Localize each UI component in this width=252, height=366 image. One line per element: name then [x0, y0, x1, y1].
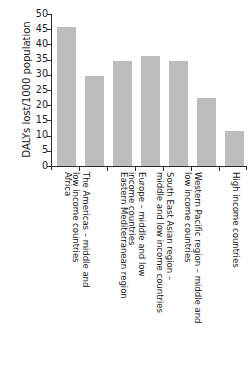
x-axis-category-label: The Americas – middle and low income cou… [71, 172, 90, 357]
y-axis-tick-label: 45 [36, 23, 48, 35]
x-axis-category-label: Western Pacific region – middle and low … [183, 172, 202, 357]
bar [169, 61, 188, 166]
x-axis-category-label: Europe – middle and low income countries [127, 172, 146, 357]
x-axis-line [51, 166, 247, 167]
bar [225, 131, 244, 166]
y-axis-tick-label: 35 [36, 53, 48, 65]
y-axis-line [51, 14, 52, 166]
bar [57, 27, 76, 166]
x-axis-category-label: High income countries [230, 172, 240, 357]
x-axis-right-cap [246, 166, 247, 170]
bar [141, 56, 160, 166]
x-axis-tick [79, 166, 80, 171]
y-axis-tick-label: 50 [36, 8, 48, 20]
y-axis-tick-label: 20 [36, 99, 48, 111]
y-axis-tick-label: 30 [36, 68, 48, 80]
x-axis-category-label: South East Asian region – middle and low… [155, 172, 174, 357]
x-axis-tick [135, 166, 136, 171]
y-axis-tick-label: 40 [36, 38, 48, 50]
x-axis-tick [191, 166, 192, 171]
y-axis-tick-label: 25 [36, 84, 48, 96]
bar-chart: DALYs lost/1000 population 0510152025303… [0, 0, 252, 366]
plot-area: 05101520253035404550 [51, 14, 247, 166]
y-axis-tick-label: 10 [36, 129, 48, 141]
y-axis-tick-label: 15 [36, 114, 48, 126]
y-axis-tick-label: 0 [42, 160, 48, 172]
x-axis-tick [163, 166, 164, 171]
y-axis-tick-label: 5 [42, 144, 48, 156]
y-axis-title: DALYs lost/1000 population [21, 5, 32, 175]
x-axis-tick [107, 166, 108, 171]
x-axis-category-labels: AfricaThe Americas – middle and low inco… [51, 172, 247, 362]
x-axis-tick [219, 166, 220, 171]
bar [113, 61, 132, 166]
bar [197, 98, 216, 166]
x-axis-left-cap [51, 166, 52, 170]
bar [85, 76, 104, 166]
